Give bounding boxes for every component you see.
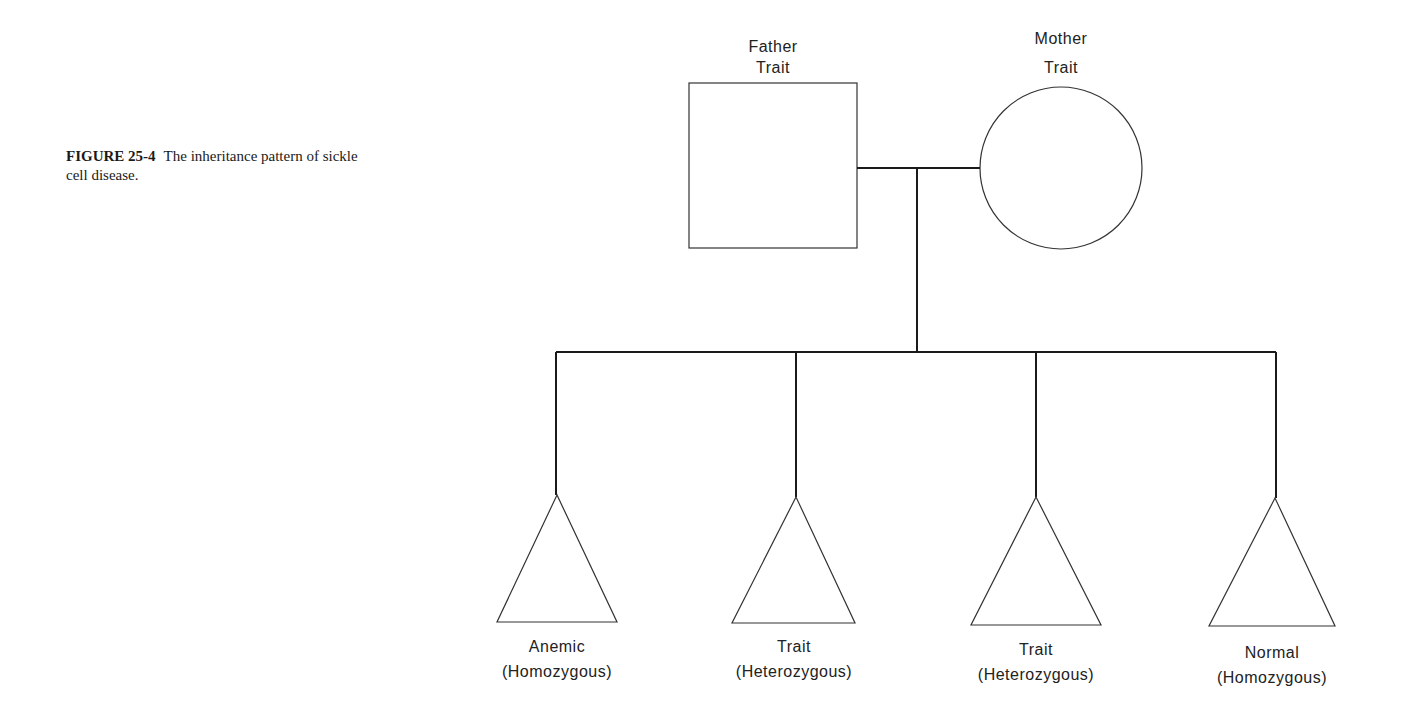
mother-label-line2: Trait xyxy=(1044,59,1078,76)
pedigree-diagram: Father Trait Mother Trait Anemic (Homozy… xyxy=(0,0,1407,709)
connector-lines xyxy=(556,168,1276,498)
child-4-label-line1: Normal xyxy=(1245,644,1300,661)
father-label-line1: Father xyxy=(748,38,797,55)
child-1-node: Anemic (Homozygous) xyxy=(497,495,617,680)
child-2-node: Trait (Heterozygous) xyxy=(732,497,855,680)
child-3-label-line2: (Heterozygous) xyxy=(978,666,1094,683)
child-4-label-line2: (Homozygous) xyxy=(1217,669,1327,686)
child-2-label-line2: (Heterozygous) xyxy=(736,663,852,680)
triangle-icon xyxy=(971,497,1101,625)
mother-label-line1: Mother xyxy=(1035,30,1088,47)
child-1-label-line1: Anemic xyxy=(529,638,585,655)
triangle-icon xyxy=(1209,498,1335,626)
child-2-label-line1: Trait xyxy=(777,638,811,655)
child-3-label-line1: Trait xyxy=(1019,641,1053,658)
mother-circle-icon xyxy=(980,87,1142,249)
triangle-icon xyxy=(732,497,855,623)
child-1-label-line2: (Homozygous) xyxy=(502,663,612,680)
child-3-node: Trait (Heterozygous) xyxy=(971,497,1101,683)
mother-node: Mother Trait xyxy=(980,30,1142,249)
triangle-icon xyxy=(497,495,617,622)
father-node: Father Trait xyxy=(689,38,857,248)
child-4-node: Normal (Homozygous) xyxy=(1209,498,1335,686)
father-label-line2: Trait xyxy=(756,59,790,76)
father-square-icon xyxy=(689,83,857,248)
